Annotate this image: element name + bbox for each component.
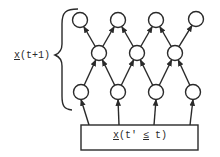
node-top	[149, 13, 164, 28]
edge-arrow	[178, 60, 190, 85]
input-label: x(t' ≤ t)	[113, 130, 167, 141]
network-diagram: x(t+1) x(t' ≤ t)	[0, 0, 220, 157]
input-arrow	[190, 100, 193, 126]
edge-arrow	[122, 26, 134, 46]
node-bottom	[186, 85, 201, 100]
node-top	[111, 13, 126, 28]
edge-arrow	[121, 60, 133, 86]
node-bottom	[74, 85, 89, 100]
node-middle	[168, 46, 183, 61]
node-middle	[130, 46, 145, 61]
node-bottom	[111, 85, 126, 100]
node-top	[189, 12, 204, 27]
edge-arrow	[179, 25, 192, 46]
edge-arrow	[102, 60, 114, 86]
node-middle	[92, 46, 107, 61]
input-arrow	[154, 100, 156, 126]
edge-arrow	[84, 26, 96, 46]
edge-arrow	[160, 26, 172, 46]
edges	[81, 25, 193, 125]
edge-arrow	[103, 26, 115, 46]
edge-arrow	[140, 60, 152, 86]
output-label: x(t+1)	[14, 50, 50, 61]
nodes	[73, 12, 204, 100]
node-top	[73, 13, 88, 28]
node-bottom	[149, 85, 164, 100]
edge-arrow	[159, 60, 171, 86]
input-arrow	[81, 100, 89, 126]
edge-arrow	[141, 26, 153, 46]
input-arrow	[118, 100, 119, 126]
edge-arrow	[84, 60, 96, 85]
